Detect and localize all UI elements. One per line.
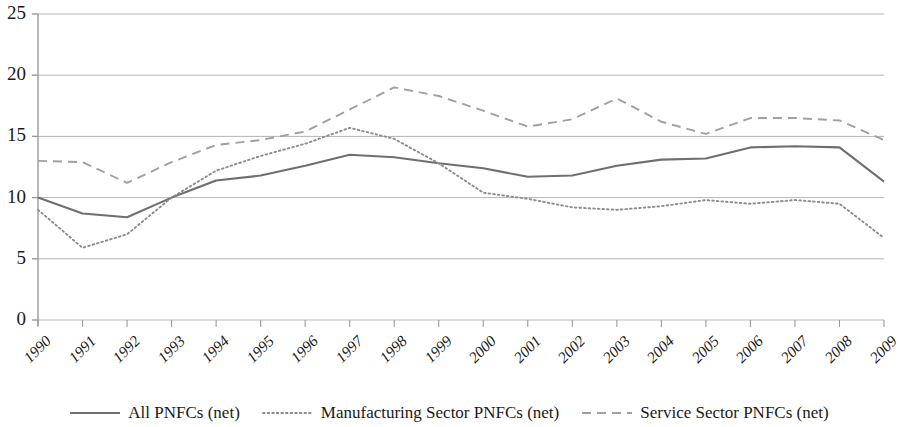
legend-label: Manufacturing Sector PNFCs (net) bbox=[321, 403, 559, 423]
series-lines bbox=[38, 87, 884, 247]
y-axis-tick-label: 5 bbox=[0, 247, 26, 269]
legend-item: Service Sector PNFCs (net) bbox=[581, 403, 828, 423]
legend-line-swatch-solid bbox=[69, 408, 121, 418]
legend-label: Service Sector PNFCs (net) bbox=[640, 403, 828, 423]
chart-legend: All PNFCs (net)Manufacturing Sector PNFC… bbox=[0, 398, 898, 427]
legend-line-swatch-dotted bbox=[262, 408, 314, 418]
y-axis-tick-label: 25 bbox=[0, 2, 26, 24]
line-chart: 2520151050 19901991199219931994199519961… bbox=[0, 0, 898, 427]
y-axis-tick-label: 10 bbox=[0, 186, 26, 208]
y-axis-tick-label: 20 bbox=[0, 63, 26, 85]
series-line-2 bbox=[38, 128, 884, 248]
legend-label: All PNFCs (net) bbox=[128, 403, 239, 423]
series-line-1 bbox=[38, 146, 884, 217]
plot-area bbox=[0, 0, 898, 427]
y-axis-tick-label: 0 bbox=[0, 308, 26, 330]
gridlines bbox=[38, 14, 884, 320]
series-line-3 bbox=[38, 87, 884, 182]
x-axis-ticks bbox=[38, 320, 884, 327]
axis-lines bbox=[32, 14, 38, 326]
legend-item: Manufacturing Sector PNFCs (net) bbox=[262, 403, 559, 423]
legend-line-swatch-dashed bbox=[581, 408, 633, 418]
legend-item: All PNFCs (net) bbox=[69, 403, 239, 423]
y-axis-tick-label: 15 bbox=[0, 124, 26, 146]
